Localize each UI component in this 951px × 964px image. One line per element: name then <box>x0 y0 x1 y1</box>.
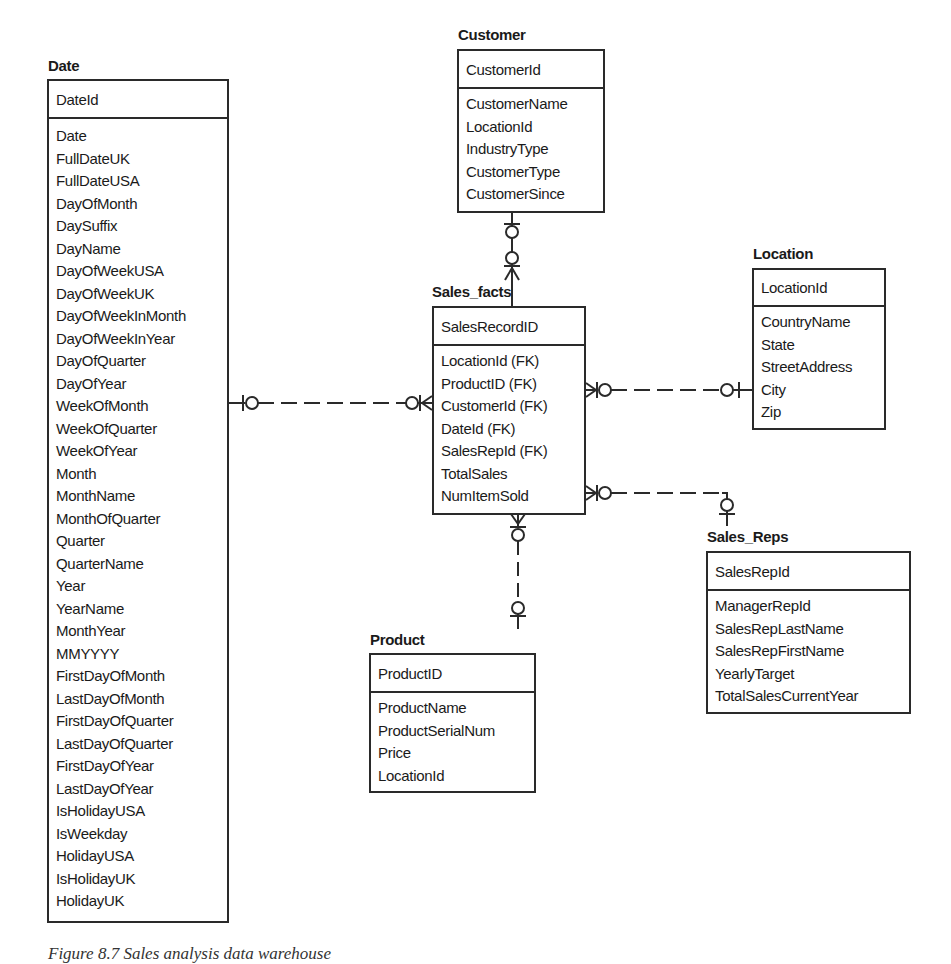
attribute: DayOfWeekInYear <box>56 328 227 351</box>
attribute: MonthName <box>56 485 227 508</box>
attribute: DayOfWeekInMonth <box>56 305 227 328</box>
attribute: IsWeekday <box>56 823 227 846</box>
attribute: IsHolidayUK <box>56 868 227 891</box>
attribute: MMYYYY <box>56 643 227 666</box>
attribute: StreetAddress <box>761 356 884 379</box>
product-attributes: ProductName ProductSerialNum Price Locat… <box>371 693 534 787</box>
attribute: SalesRepId (FK) <box>441 440 584 463</box>
attribute: FirstDayOfYear <box>56 755 227 778</box>
customer-attributes: CustomerName LocationId IndustryType Cus… <box>459 89 603 206</box>
attribute: Quarter <box>56 530 227 553</box>
attribute: ProductSerialNum <box>378 720 534 743</box>
attribute: ProductName <box>378 697 534 720</box>
attribute: CustomerName <box>466 93 603 116</box>
attribute: DayOfQuarter <box>56 350 227 373</box>
attribute: FirstDayOfMonth <box>56 665 227 688</box>
attribute: DateId (FK) <box>441 418 584 441</box>
sales-facts-entity-title: Sales_facts <box>432 283 511 300</box>
customer-entity-title: Customer <box>458 26 526 43</box>
attribute: LastDayOfMonth <box>56 688 227 711</box>
attribute: SalesRepFirstName <box>715 640 909 663</box>
customer-primary-key: CustomerId <box>459 51 603 89</box>
sales-reps-sales-facts-connector <box>586 485 735 526</box>
attribute: Price <box>378 742 534 765</box>
product-sales-facts-connector <box>510 514 526 629</box>
attribute: DaySuffix <box>56 215 227 238</box>
product-entity[interactable]: ProductID ProductName ProductSerialNum P… <box>369 653 536 793</box>
sales-facts-primary-key: SalesRecordID <box>434 308 584 346</box>
sales-reps-entity[interactable]: SalesRepId ManagerRepId SalesRepLastName… <box>706 551 911 714</box>
sales-reps-attributes: ManagerRepId SalesRepLastName SalesRepFi… <box>708 591 909 708</box>
attribute: IsHolidayUSA <box>56 800 227 823</box>
attribute: WeekOfQuarter <box>56 418 227 441</box>
attribute: FullDateUK <box>56 148 227 171</box>
attribute: WeekOfMonth <box>56 395 227 418</box>
attribute: WeekOfYear <box>56 440 227 463</box>
attribute: HolidayUK <box>56 890 227 913</box>
sales-facts-attributes: LocationId (FK) ProductID (FK) CustomerI… <box>434 346 584 508</box>
location-entity[interactable]: LocationId CountryName State StreetAddre… <box>752 268 886 430</box>
figure-caption: Figure 8.7 Sales analysis data warehouse <box>48 944 331 964</box>
attribute: ManagerRepId <box>715 595 909 618</box>
sales-reps-primary-key: SalesRepId <box>708 553 909 591</box>
attribute: NumItemSold <box>441 485 584 508</box>
attribute: State <box>761 334 884 357</box>
date-sales-facts-connector <box>229 395 432 411</box>
attribute: FullDateUSA <box>56 170 227 193</box>
location-entity-title: Location <box>753 245 813 262</box>
attribute: HolidayUSA <box>56 845 227 868</box>
attribute: CustomerSince <box>466 183 603 206</box>
attribute: LastDayOfYear <box>56 778 227 801</box>
product-entity-title: Product <box>370 631 425 648</box>
customer-entity[interactable]: CustomerId CustomerName LocationId Indus… <box>457 49 605 213</box>
location-sales-facts-connector <box>586 382 752 398</box>
attribute: DayName <box>56 238 227 261</box>
attribute: Zip <box>761 401 884 424</box>
attribute: City <box>761 379 884 402</box>
attribute: TotalSales <box>441 463 584 486</box>
attribute: YearName <box>56 598 227 621</box>
attribute: YearlyTarget <box>715 663 909 686</box>
location-attributes: CountryName State StreetAddress City Zip <box>754 307 884 424</box>
attribute: LocationId <box>466 116 603 139</box>
attribute: CountryName <box>761 311 884 334</box>
attribute: DayOfYear <box>56 373 227 396</box>
attribute: CustomerId (FK) <box>441 395 584 418</box>
attribute: QuarterName <box>56 553 227 576</box>
attribute: DayOfMonth <box>56 193 227 216</box>
date-entity-title: Date <box>48 57 79 74</box>
product-primary-key: ProductID <box>371 655 534 693</box>
attribute: LastDayOfQuarter <box>56 733 227 756</box>
attribute: MonthOfQuarter <box>56 508 227 531</box>
location-primary-key: LocationId <box>754 270 884 307</box>
attribute: FirstDayOfQuarter <box>56 710 227 733</box>
date-primary-key: DateId <box>49 81 227 119</box>
attribute: ProductID (FK) <box>441 373 584 396</box>
date-entity[interactable]: DateId Date FullDateUK FullDateUSA DayOf… <box>47 79 229 923</box>
attribute: CustomerType <box>466 161 603 184</box>
sales-facts-entity[interactable]: SalesRecordID LocationId (FK) ProductID … <box>432 306 586 515</box>
date-attributes: Date FullDateUK FullDateUSA DayOfMonth D… <box>49 119 227 913</box>
attribute: SalesRepLastName <box>715 618 909 641</box>
attribute: Year <box>56 575 227 598</box>
attribute: IndustryType <box>466 138 603 161</box>
attribute: LocationId <box>378 765 534 788</box>
attribute: TotalSalesCurrentYear <box>715 685 909 708</box>
attribute: DayOfWeekUSA <box>56 260 227 283</box>
attribute: Date <box>56 125 227 148</box>
attribute: LocationId (FK) <box>441 350 584 373</box>
attribute: DayOfWeekUK <box>56 283 227 306</box>
attribute: Month <box>56 463 227 486</box>
attribute: MonthYear <box>56 620 227 643</box>
sales-reps-entity-title: Sales_Reps <box>707 528 788 545</box>
